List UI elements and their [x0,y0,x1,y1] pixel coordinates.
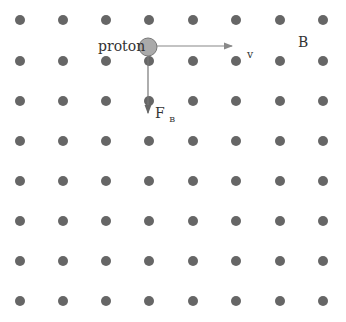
field-dot-icon [275,56,285,66]
field-dot-icon [58,96,68,106]
field-dot-icon [318,176,328,186]
field-dot-icon [231,176,241,186]
field-dot-icon [101,296,111,306]
field-dot-icon [101,256,111,266]
field-dot-icon [15,176,25,186]
field-dot-icon [275,15,285,25]
force-label: F B [155,105,175,124]
field-dot-icon [275,216,285,226]
field-dot-icon [275,136,285,146]
field-dot-icon [58,256,68,266]
field-dot-icon [231,136,241,146]
field-dot-icon [188,56,198,66]
field-dot-icon [318,256,328,266]
field-dot-icon [318,15,328,25]
field-dot-icon [188,256,198,266]
field-dot-icon [231,256,241,266]
field-dot-icon [101,136,111,146]
field-dot-icon [144,15,154,25]
field-dot-icon [231,216,241,226]
field-dot-icon [318,56,328,66]
field-dot-icon [144,216,154,226]
field-dot-icon [231,96,241,106]
field-dot-icon [231,15,241,25]
velocity-label: v [246,48,254,61]
diagram-canvas: proton v F B B [0,0,346,322]
field-dot-icon [275,96,285,106]
field-dot-icon [101,56,111,66]
magnetic-field-dots [15,15,328,306]
field-dot-icon [101,96,111,106]
field-dot-icon [318,296,328,306]
field-dot-icon [15,256,25,266]
field-dot-icon [144,256,154,266]
field-dot-icon [318,216,328,226]
field-label: B [298,34,308,50]
field-dot-icon [188,296,198,306]
proton-label: proton [98,38,145,54]
field-dot-icon [15,296,25,306]
field-dot-icon [101,216,111,226]
field-dot-icon [15,96,25,106]
field-dot-icon [275,176,285,186]
field-dot-icon [58,176,68,186]
field-dot-icon [144,56,154,66]
field-dot-icon [144,136,154,146]
field-dot-icon [318,96,328,106]
field-dot-icon [188,176,198,186]
field-dot-icon [58,15,68,25]
field-dot-icon [231,296,241,306]
field-dot-icon [101,15,111,25]
field-dot-icon [15,136,25,146]
field-dot-icon [144,296,154,306]
field-dot-icon [101,176,111,186]
field-dot-icon [231,56,241,66]
field-dot-icon [188,136,198,146]
force-label-subscript: B [169,115,175,124]
field-dot-icon [15,15,25,25]
field-dot-icon [275,296,285,306]
field-dot-icon [15,56,25,66]
field-dot-icon [58,56,68,66]
field-dot-icon [188,15,198,25]
field-dot-icon [144,176,154,186]
field-dot-icon [144,96,154,106]
field-dot-icon [58,216,68,226]
field-dot-icon [15,216,25,226]
force-label-main: F [155,105,165,121]
field-dot-icon [58,136,68,146]
field-dot-icon [58,296,68,306]
field-dot-icon [188,96,198,106]
magnetic-force-diagram: proton v F B B [0,0,346,322]
field-dot-icon [188,216,198,226]
field-dot-icon [275,256,285,266]
field-dot-icon [318,136,328,146]
